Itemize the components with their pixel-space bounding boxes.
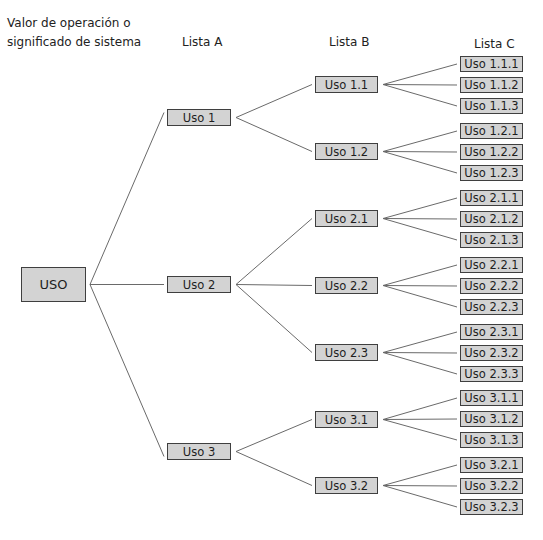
connector-line (383, 219, 457, 220)
lista-b-node-2-2: Uso 2.2 (315, 277, 378, 294)
root-node-uso: USO (21, 267, 86, 302)
lista-c-node-3-label: Uso 1.1.3 (464, 99, 518, 113)
lista-b-node-2-1: Uso 2.1 (315, 210, 378, 227)
lista-c-node-8: Uso 2.1.2 (460, 211, 523, 227)
lista-c-node-3: Uso 1.1.3 (460, 98, 523, 114)
connector-line (383, 420, 457, 441)
root-node-uso-label: USO (40, 277, 68, 292)
connector-line (90, 285, 164, 457)
lista-c-node-8-label: Uso 2.1.2 (464, 212, 518, 226)
lista-b-node-3-1-label: Uso 3.1 (325, 413, 368, 427)
connector-line (236, 452, 312, 486)
lista-b-node-2-3: Uso 2.3 (315, 344, 378, 361)
connector-line (383, 198, 457, 219)
lista-b-node-3-2: Uso 3.2 (315, 477, 378, 494)
lista-c-node-15-label: Uso 2.3.3 (464, 367, 518, 381)
lista-c-node-12: Uso 2.2.3 (460, 299, 523, 315)
connector-line (383, 85, 457, 107)
lista-c-node-7: Uso 2.1.1 (460, 190, 523, 206)
lista-c-node-17-label: Uso 3.1.2 (464, 412, 518, 426)
connector-line (383, 419, 457, 420)
lista-c-node-19: Uso 3.2.1 (460, 457, 523, 473)
lista-c-node-9-label: Uso 2.1.3 (464, 233, 518, 247)
connector-line (383, 131, 457, 152)
connector-line (383, 64, 457, 85)
lista-c-node-7-label: Uso 2.1.1 (464, 191, 518, 205)
lista-c-node-13-label: Uso 2.3.1 (464, 325, 518, 339)
lista-c-node-4-label: Uso 1.2.1 (464, 124, 518, 138)
lista-c-node-10-label: Uso 2.2.1 (464, 258, 518, 272)
lista-c-node-11: Uso 2.2.2 (460, 278, 523, 294)
connector-line (383, 398, 457, 420)
connector-line (383, 486, 457, 487)
connector-line (236, 118, 312, 152)
connector-line (383, 353, 457, 354)
lista-c-node-13: Uso 2.3.1 (460, 324, 523, 340)
lista-c-node-20: Uso 3.2.2 (460, 478, 523, 494)
connector-line (383, 286, 457, 308)
connector-line (383, 219, 457, 241)
lista-b-node-2-3-label: Uso 2.3 (325, 346, 368, 360)
connector-line (383, 465, 457, 486)
lista-a-node-2-label: Uso 2 (183, 278, 215, 292)
lista-c-node-18-label: Uso 3.1.3 (464, 433, 518, 447)
lista-c-node-17: Uso 3.1.2 (460, 411, 523, 427)
connector-line (236, 420, 312, 452)
lista-a-node-2: Uso 2 (167, 276, 231, 293)
lista-c-node-15: Uso 2.3.3 (460, 366, 523, 382)
connector-line (383, 152, 457, 174)
lista-c-node-6-label: Uso 1.2.3 (464, 166, 518, 180)
connector-line (236, 285, 312, 353)
lista-c-node-9: Uso 2.1.3 (460, 232, 523, 248)
lista-c-node-5-label: Uso 1.2.2 (464, 145, 518, 159)
lista-a-node-1: Uso 1 (167, 109, 231, 126)
lista-c-node-5: Uso 1.2.2 (460, 144, 523, 160)
connector-line (236, 285, 312, 286)
connector-line (383, 286, 457, 287)
connector-line (383, 152, 457, 153)
lista-c-node-11-label: Uso 2.2.2 (464, 279, 518, 293)
connector-line (383, 265, 457, 286)
lista-c-node-16: Uso 3.1.1 (460, 390, 523, 406)
connector-line (90, 113, 164, 285)
lista-c-node-14-label: Uso 2.3.2 (464, 346, 518, 360)
connector-line (383, 85, 457, 86)
connector-line (383, 486, 457, 508)
lista-c-node-4: Uso 1.2.1 (460, 123, 523, 139)
lista-c-node-12-label: Uso 2.2.3 (464, 300, 518, 314)
lista-a-node-3-label: Uso 3 (183, 445, 215, 459)
lista-c-node-14: Uso 2.3.2 (460, 345, 523, 361)
lista-c-node-1: Uso 1.1.1 (460, 56, 523, 72)
lista-b-node-2-2-label: Uso 2.2 (325, 279, 368, 293)
lista-c-node-21-label: Uso 3.2.3 (464, 500, 518, 514)
lista-c-node-19-label: Uso 3.2.1 (464, 458, 518, 472)
lista-c-node-18: Uso 3.1.3 (460, 432, 523, 448)
connector-line (383, 353, 457, 375)
lista-c-node-21: Uso 3.2.3 (460, 499, 523, 515)
lista-b-node-1-2: Uso 1.2 (315, 143, 378, 160)
lista-b-node-3-2-label: Uso 3.2 (325, 479, 368, 493)
lista-c-node-20-label: Uso 3.2.2 (464, 479, 518, 493)
lista-c-node-1-label: Uso 1.1.1 (464, 57, 518, 71)
lista-b-node-1-1-label: Uso 1.1 (325, 78, 368, 92)
lista-b-node-1-1: Uso 1.1 (315, 76, 378, 93)
connector-line (383, 332, 457, 353)
connector-line (236, 85, 312, 118)
lista-c-node-2: Uso 1.1.2 (460, 77, 523, 93)
lista-c-node-2-label: Uso 1.1.2 (464, 78, 518, 92)
lista-c-node-6: Uso 1.2.3 (460, 165, 523, 181)
lista-b-node-1-2-label: Uso 1.2 (325, 145, 368, 159)
connector-line (236, 219, 312, 285)
lista-a-node-3: Uso 3 (167, 443, 231, 460)
lista-b-node-3-1: Uso 3.1 (315, 411, 378, 428)
lista-a-node-1-label: Uso 1 (183, 111, 215, 125)
lista-c-node-16-label: Uso 3.1.1 (464, 391, 518, 405)
lista-c-node-10: Uso 2.2.1 (460, 257, 523, 273)
lista-b-node-2-1-label: Uso 2.1 (325, 212, 368, 226)
